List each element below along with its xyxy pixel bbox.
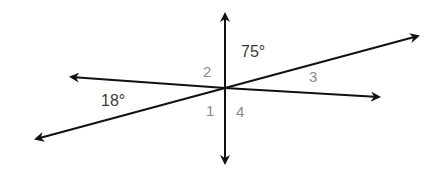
angle-2-label: 2 xyxy=(203,64,211,79)
angle-4-label: 4 xyxy=(236,104,244,119)
measure-18: 18° xyxy=(101,93,125,109)
diagram-canvas xyxy=(0,0,436,171)
angle-1-label: 1 xyxy=(206,103,214,118)
line-b-left xyxy=(71,77,225,88)
measure-75: 75° xyxy=(241,44,265,60)
line-b-right xyxy=(225,88,379,97)
angle-3-label: 3 xyxy=(309,69,317,84)
line-a-left xyxy=(36,88,225,139)
